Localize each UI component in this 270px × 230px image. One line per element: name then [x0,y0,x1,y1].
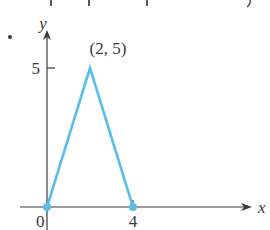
chart-canvas: y x 5 0 4 (2, 5) [0,0,270,230]
data-line [47,68,133,207]
top-text-fragment [50,0,250,7]
y-axis-label: y [37,14,47,33]
x-axis-label: x [257,198,266,217]
bullet-marker [8,35,12,39]
origin-label: 0 [36,212,45,230]
point-origin [43,203,51,211]
x-tick-label-4: 4 [129,212,138,230]
y-tick-label-5: 5 [32,59,41,78]
point-4-0 [129,203,137,211]
apex-label: (2, 5) [90,39,127,58]
